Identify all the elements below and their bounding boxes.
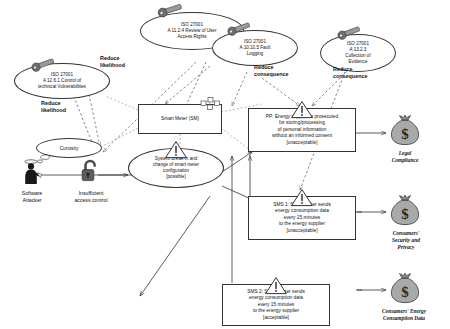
asset-caption-line-2: Consumption Data bbox=[358, 315, 450, 322]
threat-caption-line-2: Attacker bbox=[4, 197, 60, 204]
money-bag-icon: $ bbox=[388, 194, 422, 228]
incident-line-4: without an informed consent bbox=[266, 133, 338, 139]
node-component-icon bbox=[196, 96, 224, 112]
treatment-line-3: Access Rights bbox=[168, 34, 217, 40]
vulnerability-caption-line-2: access control bbox=[60, 197, 122, 204]
reduce-consequence-label-2: Reduce consequence bbox=[333, 66, 367, 79]
asset-caption-line-1: Legal bbox=[370, 150, 440, 157]
scenario-likelihood: [possible] bbox=[153, 174, 199, 180]
svg-text:$: $ bbox=[401, 126, 409, 142]
warning-triangle-icon bbox=[164, 140, 188, 159]
asset-stems bbox=[356, 133, 362, 290]
incident-line-4: to the energy supplier bbox=[273, 221, 331, 227]
software-attacker-caption: Software Attacker bbox=[4, 190, 60, 203]
asset-caption-line-1: Consumers' bbox=[370, 230, 442, 237]
wrench-icon bbox=[26, 58, 58, 72]
smart-meter-label: Smart Meter (SM) bbox=[157, 116, 203, 122]
incident-evaluation: [acceptable] bbox=[247, 315, 305, 321]
money-bag-icon: $ bbox=[388, 114, 422, 148]
asset-consumers-security-privacy[interactable]: Consumers' Security and Privacy bbox=[370, 230, 442, 250]
warning-triangle-icon bbox=[290, 188, 314, 207]
treatment-text: ISO 27001 A 12.6.1 Control of technical … bbox=[34, 72, 90, 90]
warning-triangle-icon bbox=[290, 100, 314, 119]
threat-scenario-text: System Break-in and change of smart mete… bbox=[149, 156, 203, 180]
asset-consumers-energy-consumption-data[interactable]: Consumers' Energy Consumption Data bbox=[358, 308, 450, 322]
treatment-line-3: Logging bbox=[240, 51, 271, 57]
svg-text:$: $ bbox=[401, 206, 409, 222]
treatment-line-3: technical Vulnerabilities bbox=[38, 84, 86, 90]
asset-caption-line-3: Privacy bbox=[370, 244, 442, 251]
wrench-icon bbox=[222, 22, 254, 36]
incident-line-2: energy consumption data bbox=[247, 295, 305, 301]
svg-text:$: $ bbox=[401, 284, 409, 300]
human-threat-icon bbox=[20, 158, 44, 188]
wrench-icon bbox=[152, 3, 186, 18]
incident-line-4: to the energy supplier bbox=[247, 308, 305, 314]
reduce-likelihood-label-1: Reduce likelihood bbox=[100, 55, 125, 68]
treatment-text: ISO 27001 A 10.10.5 Fault Logging bbox=[236, 39, 275, 57]
wrench-icon bbox=[332, 26, 364, 40]
asset-caption-line-1: Consumers' Energy bbox=[358, 308, 450, 315]
treatment-line-4: Evidence bbox=[345, 59, 370, 65]
warning-triangle-icon bbox=[264, 276, 288, 295]
asset-caption-line-2: Compliance bbox=[370, 157, 440, 164]
incident-evaluation: [unacceptable] bbox=[273, 228, 331, 234]
reduce-likelihood-label-2: Reduce likelihood bbox=[41, 100, 66, 113]
motivation-text: Curiosity bbox=[60, 146, 79, 151]
incident-evaluation: [unacceptable] bbox=[266, 140, 338, 146]
asset-caption-line-2: Security and bbox=[370, 237, 442, 244]
asset-legal-compliance[interactable]: Legal Compliance bbox=[370, 150, 440, 164]
vulnerability-caption: Insufficient access control bbox=[60, 190, 122, 203]
treatment-text: ISO 27001 A 13.2.3 Collection of Evidenc… bbox=[341, 41, 374, 65]
incident-line-2: energy consumption data bbox=[273, 208, 331, 214]
reduce-consequence-label-1: Reduce consequence bbox=[254, 64, 288, 77]
money-bag-icon: $ bbox=[388, 272, 422, 306]
treatment-text: ISO 27001 A 11.2.4 Review of User Access… bbox=[164, 22, 221, 40]
diagram-canvas: ISO 27001 A 12.6.1 Control of technical … bbox=[0, 0, 450, 329]
open-padlock-icon bbox=[78, 158, 102, 188]
